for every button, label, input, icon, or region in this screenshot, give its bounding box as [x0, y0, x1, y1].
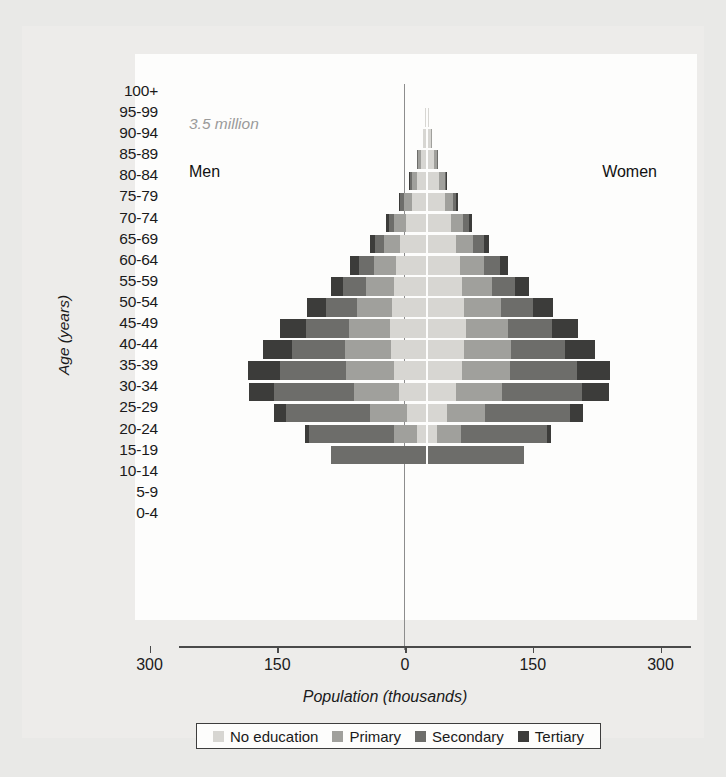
age-tick-label: 100+	[82, 80, 158, 101]
x-axis-tick	[533, 646, 535, 653]
legend-item[interactable]: Primary	[332, 728, 401, 745]
age-tick-label: 90-94	[82, 122, 158, 143]
legend-label: Secondary	[432, 728, 504, 745]
age-tick-label: 75-79	[82, 185, 158, 206]
x-axis-line	[179, 646, 691, 648]
x-axis-tick	[277, 646, 279, 653]
legend-swatch-icon	[332, 731, 343, 742]
age-tick-label: 65-69	[82, 228, 158, 249]
age-tick-label: 55-59	[82, 270, 158, 291]
x-axis-title: Population (thousands)	[22, 688, 726, 706]
legend-label: Primary	[349, 728, 401, 745]
x-axis-tick-labels: 3001500150300	[22, 656, 726, 680]
age-tick-label: 35-39	[82, 354, 158, 375]
x-axis-tick-label: 300	[647, 656, 674, 674]
x-axis-tick	[405, 646, 407, 653]
total-population-annotation: 3.5 million	[189, 115, 259, 133]
population-pyramid-figure: 100+95-9990-9485-8980-8475-7970-7465-696…	[22, 26, 704, 738]
legend-item[interactable]: No education	[213, 728, 318, 745]
women-side-label: Women	[602, 163, 657, 181]
legend-item[interactable]: Tertiary	[518, 728, 584, 745]
age-tick-label: 60-64	[82, 249, 158, 270]
x-axis-tick	[661, 646, 663, 653]
legend-label: No education	[230, 728, 318, 745]
age-tick-label: 95-99	[82, 101, 158, 122]
age-tick-label: 25-29	[82, 396, 158, 417]
x-axis-tick-label: 150	[264, 656, 291, 674]
age-tick-label: 0-4	[82, 502, 158, 523]
plot-area	[135, 54, 697, 620]
legend-swatch-icon	[518, 731, 529, 742]
legend-swatch-icon	[213, 731, 224, 742]
legend-swatch-icon	[415, 731, 426, 742]
age-tick-label: 20-24	[82, 418, 158, 439]
age-tick-label: 15-19	[82, 439, 158, 460]
men-side-label: Men	[189, 163, 220, 181]
age-tick-label: 80-84	[82, 164, 158, 185]
y-axis-title: Age (years)	[55, 255, 73, 415]
age-tick-label: 10-14	[82, 460, 158, 481]
age-axis-tick-labels: 100+95-9990-9485-8980-8475-7970-7465-696…	[82, 80, 158, 523]
zero-axis-line	[404, 84, 405, 650]
x-axis-tick-label: 0	[401, 656, 410, 674]
legend-item[interactable]: Secondary	[415, 728, 504, 745]
age-tick-label: 5-9	[82, 481, 158, 502]
age-tick-label: 30-34	[82, 375, 158, 396]
x-axis-tick-label: 150	[519, 656, 546, 674]
age-tick-label: 85-89	[82, 143, 158, 164]
age-tick-label: 50-54	[82, 291, 158, 312]
age-tick-label: 45-49	[82, 312, 158, 333]
x-axis-tick-label: 300	[136, 656, 163, 674]
x-axis-tick	[150, 646, 152, 653]
age-tick-label: 40-44	[82, 333, 158, 354]
age-tick-label: 70-74	[82, 207, 158, 228]
legend-label: Tertiary	[535, 728, 584, 745]
legend: No educationPrimarySecondaryTertiary	[196, 723, 601, 749]
